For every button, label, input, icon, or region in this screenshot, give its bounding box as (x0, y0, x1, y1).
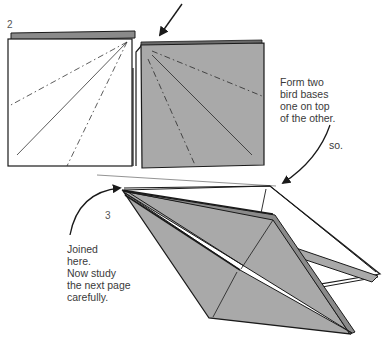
caption-line: the next page (67, 279, 131, 291)
step-number: 2 (7, 19, 13, 30)
caption-line: one on top (280, 100, 330, 112)
caption-line: carefully. (67, 291, 108, 303)
joined-arrow-icon (70, 188, 120, 235)
caption-line: of the other. (280, 112, 335, 124)
curved-arrow-icon (283, 125, 330, 183)
aside-text: so. (329, 139, 343, 151)
step-number: 3 (105, 210, 111, 221)
arrow-icon (160, 4, 182, 35)
caption-line: Form two (280, 76, 324, 88)
caption-line: here. (67, 255, 91, 267)
step2-left-square (8, 31, 142, 166)
origami-diagram (0, 0, 386, 343)
caption-line: bird bases (280, 88, 328, 100)
caption-line: Joined (67, 243, 98, 255)
step2-right-square (141, 40, 264, 168)
caption-line: Now study (67, 267, 116, 279)
step3-bird-bases (122, 186, 380, 334)
